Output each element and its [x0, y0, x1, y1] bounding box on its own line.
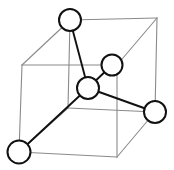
cube-edge-front_bottom_right-to-front_bottom_left	[19, 152, 117, 157]
cube-edge-back_top_left-to-back_top_right	[70, 18, 157, 20]
cube-edge-front_top_right-to-back_top_right	[117, 18, 157, 65]
crystal-structure-figure	[0, 0, 174, 170]
cube-edge-back_bottom_left-to-back_top_left	[68, 20, 70, 108]
crystal-structure-canvas	[0, 0, 174, 170]
atom-center-node	[77, 77, 99, 99]
atom-top-node	[59, 9, 81, 31]
cube-edge-back_bottom_right-to-back_bottom_left	[68, 108, 155, 112]
atom-right-node	[144, 101, 166, 123]
atom-upper-right-node	[102, 55, 123, 76]
cube-edge-back_top_right-to-back_bottom_right	[155, 18, 157, 112]
cube-edge-front_bottom_left-to-front_top_left	[19, 65, 22, 152]
bond-atom-center-atom-bottom-left	[19, 88, 88, 152]
atom-bottom-left-node	[8, 141, 31, 164]
